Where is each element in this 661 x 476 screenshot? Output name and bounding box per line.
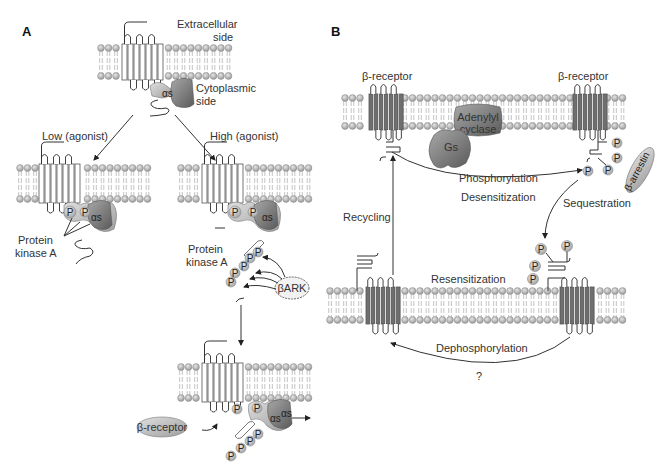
extracellular-loop: [575, 85, 580, 95]
lipid-head: [477, 317, 484, 324]
lipid-head: [619, 317, 626, 324]
lipid-head: [507, 123, 514, 130]
transmembrane-helix: [570, 287, 574, 324]
transmembrane-helix: [202, 363, 207, 402]
lipid-head: [604, 317, 611, 324]
intracellular-loop: [580, 130, 585, 140]
beta-receptor: [122, 22, 163, 90]
lipid-head: [447, 95, 454, 102]
lipid-head: [409, 95, 416, 102]
transmembrane-helix: [381, 287, 385, 324]
transmembrane-helix: [369, 94, 373, 130]
lipid-head: [203, 45, 210, 52]
phosphate-label: P: [228, 277, 235, 288]
lipid-head: [193, 364, 200, 371]
lipid-head: [114, 165, 121, 172]
transmembrane-helix: [580, 287, 584, 324]
alpha-s-label: αs: [162, 88, 173, 99]
lipid-head: [612, 288, 619, 295]
lipid-head: [290, 196, 297, 203]
high-agonist-label: High (agonist): [210, 130, 278, 142]
intracellular-loop: [131, 80, 137, 90]
transmembrane-helix: [146, 44, 151, 80]
phosphate-group: P: [236, 443, 246, 454]
cytoplasmic-side-label: side: [196, 95, 216, 107]
extracellular-loop: [388, 278, 393, 288]
lipid-head: [84, 196, 91, 203]
pka-label-1: Protein: [18, 234, 53, 246]
c-terminal-tail: [75, 240, 93, 264]
lipid-head: [484, 317, 491, 324]
lipid-head: [245, 395, 252, 402]
lipid-head: [305, 364, 312, 371]
lipid-head: [32, 196, 39, 203]
cytoplasmic-label: Cytoplasmic: [196, 82, 256, 94]
phosphate-group: P: [603, 165, 613, 176]
phosphate-label: P: [250, 207, 257, 218]
phosphate-label: P: [232, 207, 239, 218]
lipid-head: [469, 288, 476, 295]
lipid-head: [253, 196, 260, 203]
lipid-head: [454, 95, 461, 102]
lipid-head: [327, 288, 334, 295]
g-beta-gamma-subunit: [171, 78, 194, 107]
lipid-bilayer: [178, 364, 312, 402]
lipid-head: [612, 317, 619, 324]
bark-arrow-4: [244, 285, 276, 289]
lipid-head: [122, 165, 129, 172]
phosphate-group: P: [530, 261, 541, 272]
panel-a-label: A: [22, 24, 32, 39]
lipid-head: [417, 317, 424, 324]
transmembrane-helix: [158, 44, 163, 80]
lipid-head: [462, 95, 469, 102]
phosphate-label: P: [67, 207, 74, 218]
lipid-head: [98, 45, 105, 52]
lipid-head: [514, 288, 521, 295]
lipid-head: [424, 288, 431, 295]
high-agonist-arrow: [175, 115, 215, 160]
lipid-head: [409, 288, 416, 295]
extracellular-loop: [137, 35, 143, 45]
transmembrane-helix: [214, 363, 219, 402]
lipid-head: [349, 288, 356, 295]
transmembrane-helix: [232, 164, 237, 203]
lipid-head: [298, 395, 305, 402]
transmembrane-helix: [202, 164, 207, 203]
alpha-s-label: αs: [270, 413, 281, 424]
intracellular-loop: [211, 402, 217, 412]
lipid-head: [432, 288, 439, 295]
beta-receptor: [573, 85, 607, 141]
alpha-s-label: αs: [91, 212, 102, 223]
lipid-head: [283, 196, 290, 203]
phosphate-label: P: [255, 429, 262, 440]
lipid-head: [514, 123, 521, 130]
phosphate-label: P: [247, 253, 254, 264]
phosphate-group: P: [229, 206, 241, 218]
lipid-head: [559, 123, 566, 130]
lipid-head: [349, 123, 356, 130]
extracellular-loop: [391, 85, 396, 95]
lipid-head: [105, 45, 112, 52]
transmembrane-helix: [384, 94, 388, 130]
extracellular-loop: [125, 35, 131, 45]
intracellular-loop: [223, 402, 229, 412]
lipid-head: [144, 196, 151, 203]
lipid-head: [612, 95, 619, 102]
lipid-head: [245, 196, 252, 203]
transmembrane-helix: [238, 164, 243, 203]
lipid-head: [409, 317, 416, 324]
transmembrane-helix: [392, 287, 396, 324]
lipid-head: [357, 317, 364, 324]
lipid-head: [275, 196, 282, 203]
lipid-head: [298, 196, 305, 203]
phosphate-label: P: [530, 274, 537, 285]
desensitization-label: Desensitization: [461, 191, 536, 203]
transmembrane-helix: [63, 164, 68, 203]
transmembrane-helix: [376, 287, 380, 324]
panel-b-label: B: [331, 24, 340, 39]
lipid-head: [342, 288, 349, 295]
lipid-head: [342, 317, 349, 324]
extracellular-loop: [42, 155, 48, 165]
beta-receptor-bubble-label: β-receptor: [137, 421, 188, 433]
intracellular-loop: [590, 130, 595, 140]
